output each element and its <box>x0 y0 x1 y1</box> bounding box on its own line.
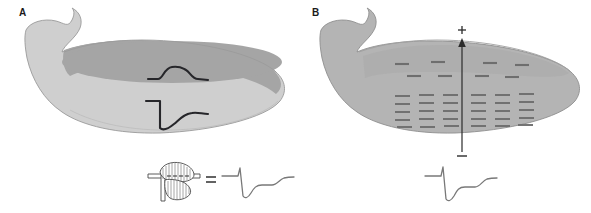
figure-root: A <box>0 0 591 213</box>
equals-sign <box>206 177 216 182</box>
myocyte-pair-diagram <box>148 162 200 201</box>
ventricle-cavity-shadow <box>62 41 282 83</box>
panel-a-graphic <box>0 0 296 213</box>
myocyte-upper-cell <box>160 162 194 182</box>
panel-a: A <box>0 0 296 213</box>
ecg-complex-trace-a <box>222 168 294 198</box>
panel-b-graphic <box>295 0 591 213</box>
ecg-complex-trace-b <box>425 167 497 201</box>
lead-axis-positive-icon <box>458 26 466 34</box>
myocyte-lower-cell <box>165 179 191 199</box>
panel-b: B <box>295 0 591 213</box>
myocyte-left-limb <box>148 174 162 178</box>
